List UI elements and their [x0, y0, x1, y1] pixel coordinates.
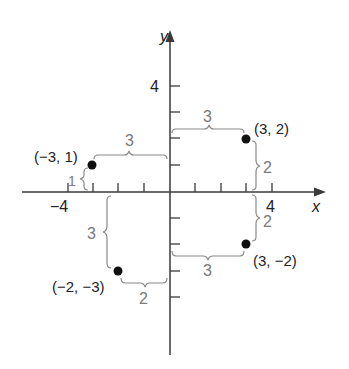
- brace-p1-vertical: [80, 168, 88, 190]
- point-3-neg2: [242, 240, 251, 249]
- point-label-3-neg2: (3, −2): [253, 252, 297, 269]
- x-tick-label-neg4: −4: [50, 198, 68, 215]
- brace-p2-horizontal: [172, 125, 244, 133]
- coordinate-plane: y x 4 −4 4 3 2 3 1 3 2 2 3 (−3, 1) (3, 2…: [0, 0, 349, 369]
- brace-label-p2-vertical: 2: [263, 159, 272, 176]
- x-axis-arrow-icon: [314, 188, 326, 197]
- brace-label-p1-horizontal: 3: [125, 132, 134, 149]
- brace-label-p3-horizontal: 2: [139, 290, 148, 307]
- brace-label-p3-vertical: 3: [87, 225, 96, 242]
- brace-p4-horizontal: [172, 251, 244, 260]
- y-tick-label-4: 4: [150, 78, 159, 95]
- point-label-neg3-1: (−3, 1): [34, 148, 78, 165]
- brace-p2-vertical: [252, 141, 260, 190]
- point-neg2-neg3: [114, 267, 123, 276]
- brace-p3-vertical: [103, 196, 111, 268]
- brace-p4-vertical: [252, 195, 260, 241]
- y-axis-label: y: [159, 28, 169, 45]
- point-neg3-1: [88, 161, 97, 170]
- point-label-3-2: (3, 2): [254, 120, 289, 137]
- point-label-neg2-neg3: (−2, −3): [52, 278, 105, 295]
- brace-label-p4-vertical: 2: [263, 213, 272, 230]
- brace-label-p2-horizontal: 3: [203, 108, 212, 125]
- x-axis-label: x: [311, 198, 321, 215]
- brace-p3-horizontal: [121, 278, 167, 287]
- point-3-2: [242, 135, 251, 144]
- brace-p1-horizontal: [94, 151, 167, 159]
- brace-label-p1-vertical: 1: [68, 173, 76, 189]
- brace-label-p4-horizontal: 3: [203, 262, 212, 279]
